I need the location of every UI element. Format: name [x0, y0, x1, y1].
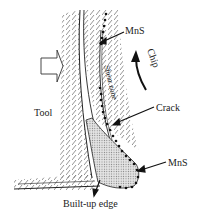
chip-flow-arrow-icon — [131, 50, 146, 90]
label-crack: Crack — [156, 102, 180, 113]
label-built-up-edge: Built-up edge — [63, 198, 118, 209]
label-mns-bottom: MnS — [168, 157, 187, 168]
tool-feed-arrow-icon — [41, 50, 63, 82]
label-chip: Chip — [145, 47, 162, 69]
label-mns-top: MnS — [125, 25, 144, 36]
chip-formation-diagram: MnS Chip Shear zone Tool Crack MnS Built… — [0, 0, 198, 214]
workpiece — [14, 174, 100, 190]
label-tool: Tool — [34, 107, 52, 118]
